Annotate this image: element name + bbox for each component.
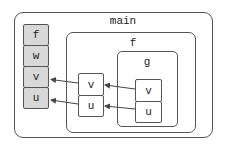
arrow-g-v-to-f-v <box>105 85 135 89</box>
arrow-f-v-to-main-v <box>51 80 78 84</box>
reference-arrows <box>0 0 227 150</box>
arrow-g-u-to-f-u <box>105 106 135 109</box>
arrow-f-u-to-main-u <box>51 100 78 104</box>
